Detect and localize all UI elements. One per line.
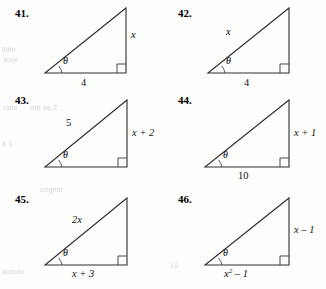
angle-theta-label: θ [63, 150, 68, 160]
angle-theta-label: θ [63, 248, 68, 258]
side-label-base: x2 – 1 [224, 269, 248, 280]
angle-theta-label: θ [63, 56, 68, 66]
angle-theta-label: θ [226, 56, 231, 66]
angle-theta-label: θ [223, 150, 228, 160]
problem-46: 46. θ x – 1 x2 – 1 [163, 188, 326, 289]
side-label-base: 10 [238, 171, 249, 182]
problem-43: 43. θ 5 x + 2 [0, 95, 163, 191]
side-label-base: 4 [81, 78, 86, 89]
problem-42: 42. θ x 4 [163, 0, 326, 96]
side-label-vertical: x [131, 30, 136, 41]
side-label-hypotenuse: 2x [72, 215, 82, 226]
side-label-base: x + 3 [72, 269, 94, 280]
worksheet-page: { "page": { "title": "Right triangle exe… [0, 0, 326, 289]
side-label-vertical: x + 2 [132, 128, 154, 139]
angle-theta-label: θ [223, 248, 228, 258]
triangle-figure [0, 95, 163, 191]
problem-45: 45. θ 2x x + 3 [0, 188, 163, 289]
side-label-vertical: x – 1 [294, 225, 314, 236]
problem-41: 41. θ x 4 [0, 0, 163, 96]
side-label-hypotenuse: x [226, 27, 231, 38]
side-label-vertical: x + 1 [294, 128, 316, 139]
base-label-remainder: – 1 [232, 268, 248, 279]
problem-44: 44. θ x + 1 10 [163, 95, 326, 191]
side-label-base: 4 [244, 78, 249, 89]
side-label-hypotenuse: 5 [66, 118, 71, 129]
